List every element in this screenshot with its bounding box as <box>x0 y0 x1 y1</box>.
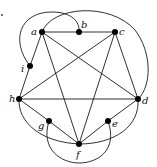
vertex-h <box>16 96 22 102</box>
edge-c-d <box>115 32 138 99</box>
vertex-label-b: b <box>81 19 87 30</box>
curved-edge-i-b <box>20 12 79 66</box>
vertex-f <box>76 141 82 147</box>
vertex-label-i: i <box>21 63 24 74</box>
vertex-label-f: f <box>75 149 82 160</box>
curved-edge-a-d <box>42 11 148 99</box>
graph-diagram: abcihdgef <box>0 0 157 167</box>
edge-a-i <box>30 32 42 66</box>
edge-g-f <box>49 121 79 144</box>
vertex-g <box>46 118 52 124</box>
labels-group: abcihdgef <box>9 19 148 160</box>
vertex-label-a: a <box>31 26 37 37</box>
vertex-label-g: g <box>38 120 44 131</box>
edges-group <box>19 32 138 144</box>
stray-dot-mark <box>1 14 3 16</box>
vertex-label-c: c <box>119 26 125 37</box>
vertex-c <box>112 29 118 35</box>
vertex-label-e: e <box>112 118 118 129</box>
edge-a-d <box>42 32 138 99</box>
edge-c-h <box>19 32 115 99</box>
vertex-a <box>39 29 45 35</box>
vertex-label-h: h <box>9 93 15 104</box>
vertex-e <box>105 118 111 124</box>
vertex-d <box>135 96 141 102</box>
vertex-label-d: d <box>142 95 148 106</box>
vertex-i <box>27 63 33 69</box>
